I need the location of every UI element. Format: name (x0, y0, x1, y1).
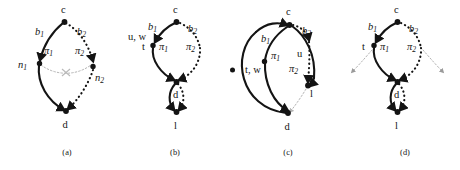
label-annotation-t: t (362, 41, 365, 52)
label-edge-pi2: π2 (75, 45, 84, 58)
node-t (371, 43, 376, 48)
figure-container: n2 --> c d n1 n2 b1 b2 π1 π2 (0, 0, 460, 170)
edge-d-right (399, 84, 404, 110)
caption-c: (c) (283, 148, 293, 157)
node-d (63, 108, 69, 114)
label-annotation-u: u (297, 48, 303, 59)
label-node-c: c (173, 4, 178, 15)
label-annotation-t: t (142, 41, 145, 52)
label-node-d: d (173, 89, 179, 100)
node-n2 (90, 64, 95, 69)
label-edge-pi2: π2 (186, 41, 195, 54)
label-edge-pi1: π1 (159, 41, 168, 54)
edge-pi2 (179, 48, 200, 80)
label-edge-b2: b2 (188, 23, 197, 36)
node-n1 (37, 61, 42, 66)
node-l (395, 109, 401, 115)
label-edge-b1: b1 (261, 33, 270, 46)
label-edge-b1: b1 (148, 21, 157, 34)
node-c (62, 19, 68, 25)
label-edge-b2: b2 (409, 23, 418, 36)
label-node-l: l (174, 120, 177, 131)
label-edge-b2: b2 (77, 26, 86, 39)
node-l (174, 109, 180, 115)
node-c (395, 19, 401, 25)
edge-pi2 (68, 70, 93, 109)
node-c (287, 22, 293, 28)
node-c (174, 19, 180, 25)
label-edge-pi1: π1 (44, 45, 53, 58)
label-node-n2: n2 (95, 72, 104, 85)
label-edge-pi1: π1 (271, 50, 280, 63)
label-node-d: d (394, 89, 400, 100)
label-node-l: l (310, 88, 313, 99)
node-outer-left (230, 68, 235, 73)
panel-a: n2 --> c d n1 n2 b1 b2 π1 π2 (0, 0, 118, 170)
label-node-n1: n1 (18, 59, 27, 72)
node-d-junction (174, 79, 180, 85)
edge-b1 (155, 23, 175, 42)
node-d (285, 110, 291, 116)
edge-faint-l-to-d (290, 89, 306, 112)
edge-pi1 (39, 65, 64, 110)
panel-b: c d l u, w t b1 b2 π1 π2 (b) (118, 0, 226, 170)
label-node-l: l (395, 120, 398, 131)
edge-faint-out-left (352, 50, 372, 72)
panel-d: c d l t b1 b2 π1 π2 (d) (342, 0, 460, 170)
edge-d-right (178, 84, 183, 110)
edge-pi1 (265, 62, 288, 111)
edge-faint-out-right (423, 50, 443, 72)
label-edge-b1: b1 (35, 26, 44, 39)
caption-d: (d) (400, 148, 410, 157)
label-edge-b1: b1 (368, 21, 377, 34)
label-node-d: d (285, 121, 291, 132)
panel-c: c d l t, w u b1 b2 π1 π2 (c) (226, 0, 342, 170)
node-t (150, 43, 155, 48)
edge-pi2 (400, 48, 421, 80)
label-edge-pi2: π2 (407, 41, 416, 54)
label-node-c: c (394, 4, 399, 15)
cut-x-icon (62, 69, 70, 76)
label-edge-pi2: π2 (289, 63, 298, 76)
label-edge-pi1: π1 (380, 41, 389, 54)
node-d-junction (395, 79, 401, 85)
caption-a: (a) (62, 148, 72, 157)
label-node-d: d (63, 119, 69, 130)
label-node-c: c (286, 6, 291, 17)
caption-b: (b) (170, 148, 180, 157)
label-annotation-tw: t, w (245, 64, 261, 75)
node-tw (262, 59, 267, 64)
label-node-c: c (61, 4, 66, 15)
edge-b1 (376, 23, 396, 42)
